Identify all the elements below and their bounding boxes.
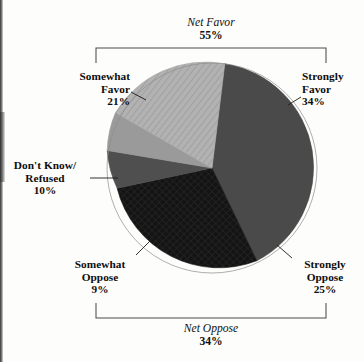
annotation-net-favor: Net Favor 55% (161, 16, 261, 42)
annotation-net-oppose-value: 34% (161, 335, 261, 348)
pie-chart-figure: Net Favor 55% Net Oppose 34% Strongly Fa… (0, 0, 364, 362)
slice-label-strongly-oppose: Strongly Oppose 25% (287, 258, 363, 296)
annotation-net-favor-name: Net Favor (161, 16, 261, 29)
slice-label-dont-know-refused-line2: Refused (0, 172, 90, 185)
slice-label-somewhat-oppose-line1: Somewhat (55, 258, 145, 271)
slice-label-somewhat-favor: Somewhat Favor 21% (5, 70, 130, 108)
leader-line-strongly-oppose (277, 245, 292, 258)
slice-label-somewhat-favor-line2: Favor (5, 83, 130, 96)
slice-label-dont-know-refused-line1: Don't Know/ (0, 159, 90, 172)
slice-label-somewhat-oppose-value: 9% (55, 283, 145, 296)
annotation-net-favor-value: 55% (161, 29, 261, 42)
slice-label-strongly-favor: Strongly Favor 34% (302, 70, 344, 108)
slice-label-dont-know-refused: Don't Know/ Refused 10% (0, 159, 90, 197)
slice-label-dont-know-refused-value: 10% (0, 184, 90, 197)
slice-label-somewhat-oppose-line2: Oppose (55, 271, 145, 284)
slice-label-strongly-favor-line2: Favor (302, 83, 344, 96)
annotation-net-oppose-name: Net Oppose (161, 322, 261, 335)
slice-label-strongly-oppose-line2: Oppose (287, 271, 363, 284)
slice-label-strongly-oppose-line1: Strongly (287, 258, 363, 271)
slice-label-strongly-oppose-value: 25% (287, 283, 363, 296)
slice-label-somewhat-favor-value: 21% (5, 95, 130, 108)
bracket-net-favor (96, 48, 326, 63)
slice-label-strongly-favor-line1: Strongly (302, 70, 344, 83)
slice-label-strongly-favor-value: 34% (302, 95, 344, 108)
slice-label-somewhat-oppose: Somewhat Oppose 9% (55, 258, 145, 296)
bracket-net-oppose (96, 303, 326, 318)
annotation-net-oppose: Net Oppose 34% (161, 322, 261, 348)
slice-label-somewhat-favor-line1: Somewhat (5, 70, 130, 83)
